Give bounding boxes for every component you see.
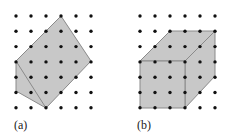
lattice-dot [89,91,92,94]
lattice-dot [198,60,201,63]
dot-lattice-figure [0,0,226,136]
lattice-dot [183,60,186,63]
lattice-dot [198,30,201,33]
lattice-dot [44,60,47,63]
lattice-dot [138,30,141,33]
lattice-dot [168,60,171,63]
lattice-dot [153,76,156,79]
lattice-dot [59,91,62,94]
lattice-dot [29,106,32,109]
lattice-dot [59,60,62,63]
lattice-dot [183,76,186,79]
lattice-dot [44,91,47,94]
lattice-dot [198,106,201,109]
lattice-dot [14,14,17,17]
lattice-dot [74,106,77,109]
lattice-dot [213,76,216,79]
lattice-dot [138,106,141,109]
lattice-dot [198,45,201,48]
lattice-dot [44,30,47,33]
lattice-dot [168,106,171,109]
lattice-dot [44,45,47,48]
lattice-dot [29,45,32,48]
lattice-dot [138,76,141,79]
lattice-dot [29,76,32,79]
lattice-dot [14,30,17,33]
lattice-dot [74,30,77,33]
lattice-dot [14,106,17,109]
lattice-dot [198,14,201,17]
lattice-dot [59,76,62,79]
lattice-dot [213,45,216,48]
lattice-dot [198,76,201,79]
lattice-dot [153,106,156,109]
lattice-dot [89,76,92,79]
cube-front-face [140,61,185,108]
lattice-dot [213,91,216,94]
lattice-dot [138,45,141,48]
lattice-dot [198,91,201,94]
lattice-dot [59,30,62,33]
lattice-dot [183,91,186,94]
lattice-dot [44,76,47,79]
lattice-dot [183,14,186,17]
lattice-dot [168,91,171,94]
polygon-a [16,16,91,108]
lattice-dot [59,106,62,109]
lattice-dot [89,45,92,48]
lattice-dot [168,76,171,79]
panel-label-b: (b) [137,118,151,133]
lattice-dot [153,14,156,17]
lattice-dot [14,76,17,79]
lattice-dot [168,45,171,48]
lattice-dot [89,60,92,63]
lattice-dot [14,45,17,48]
lattice-dot [14,91,17,94]
lattice-dot [168,14,171,17]
lattice-dot [153,30,156,33]
lattice-dot [29,91,32,94]
lattice-dot [138,91,141,94]
panel-label-a: (a) [14,118,27,133]
lattice-dot [213,14,216,17]
lattice-dot [59,14,62,17]
lattice-dot [183,30,186,33]
lattice-dot [14,60,17,63]
lattice-dot [74,76,77,79]
lattice-dot [74,14,77,17]
lattice-dot [59,45,62,48]
lattice-dot [74,45,77,48]
lattice-dot [89,14,92,17]
lattice-dot [138,14,141,17]
lattice-dot [168,30,171,33]
lattice-dot [213,60,216,63]
lattice-dot [29,14,32,17]
lattice-dot [138,60,141,63]
lattice-dot [153,45,156,48]
lattice-dot [44,106,47,109]
lattice-dot [213,106,216,109]
lattice-dot [213,30,216,33]
lattice-dot [74,60,77,63]
lattice-dot [44,14,47,17]
lattice-dot [29,60,32,63]
lattice-dot [29,30,32,33]
lattice-dot [74,91,77,94]
lattice-dot [89,106,92,109]
lattice-dot [183,45,186,48]
lattice-dot [153,60,156,63]
lattice-dot [153,91,156,94]
lattice-dot [89,30,92,33]
lattice-dot [183,106,186,109]
